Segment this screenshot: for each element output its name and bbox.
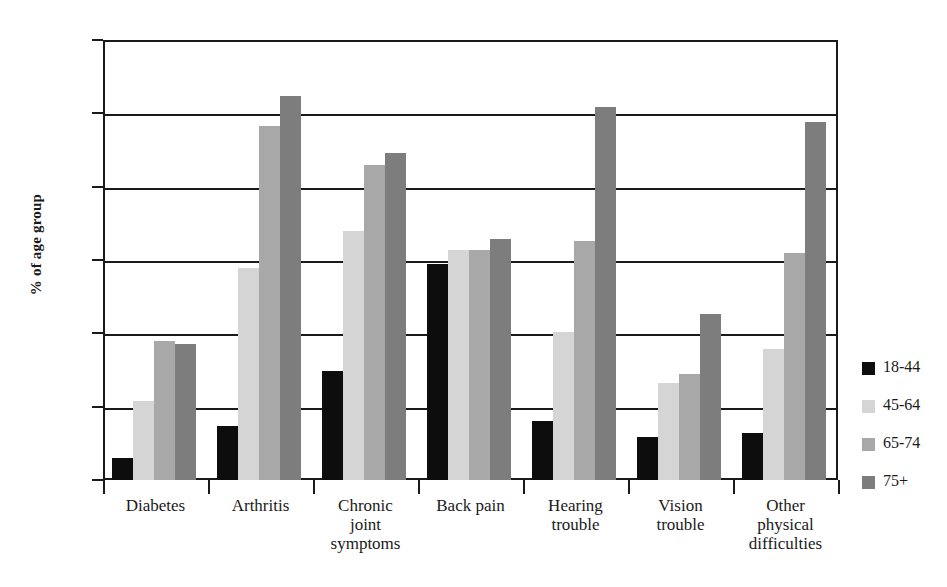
- bar: [700, 314, 721, 480]
- bar: [742, 433, 763, 480]
- bar: [385, 153, 406, 480]
- y-tick-mark: [92, 39, 103, 41]
- x-tick-mark: [838, 480, 840, 494]
- bar: [784, 253, 805, 480]
- x-axis-label: Otherphysicaldifficulties: [723, 496, 849, 554]
- bars-layer: [103, 40, 838, 480]
- bar-group: [418, 40, 523, 480]
- bar: [364, 165, 385, 480]
- bar: [238, 268, 259, 480]
- bar: [679, 374, 700, 480]
- x-tick-mark: [628, 480, 630, 494]
- x-tick-mark: [523, 480, 525, 494]
- bar-group: [208, 40, 313, 480]
- y-tick-mark: [92, 112, 103, 114]
- bar: [595, 107, 616, 480]
- y-tick-mark: [92, 186, 103, 188]
- x-tick-mark: [313, 480, 315, 494]
- legend-label: 65-74: [883, 434, 920, 452]
- y-tick-mark: [92, 406, 103, 408]
- legend-swatch: [862, 400, 875, 413]
- bar: [532, 421, 553, 480]
- bar: [658, 383, 679, 480]
- legend-swatch: [862, 362, 875, 375]
- bar: [175, 344, 196, 480]
- bar: [259, 126, 280, 480]
- bar-group: [733, 40, 838, 480]
- bar: [553, 332, 574, 480]
- bar: [469, 250, 490, 480]
- x-tick-mark: [733, 480, 735, 494]
- y-tick-mark: [92, 259, 103, 261]
- legend-swatch: [862, 438, 875, 451]
- y-axis-title: % of age group: [28, 145, 45, 345]
- bar-group: [628, 40, 733, 480]
- legend-label: 75+: [883, 472, 908, 490]
- bar: [322, 371, 343, 480]
- bar-chart: % of age group 0102030405060 DiabetesArt…: [0, 0, 947, 587]
- legend-label: 18-44: [883, 358, 920, 376]
- bar: [637, 437, 658, 480]
- x-tick-mark: [103, 480, 105, 494]
- bar: [217, 426, 238, 480]
- legend-swatch: [862, 476, 875, 489]
- bar: [427, 264, 448, 480]
- bar: [280, 96, 301, 480]
- bar: [343, 231, 364, 480]
- y-tick-mark: [92, 479, 103, 481]
- bar: [448, 250, 469, 480]
- x-tick-mark: [208, 480, 210, 494]
- bar-group: [313, 40, 418, 480]
- bar: [763, 349, 784, 480]
- y-tick-mark: [92, 332, 103, 334]
- bar: [805, 122, 826, 480]
- legend-label: 45-64: [883, 396, 920, 414]
- x-tick-mark: [418, 480, 420, 494]
- bar: [574, 241, 595, 480]
- bar-group: [103, 40, 208, 480]
- bar-group: [523, 40, 628, 480]
- bar: [154, 341, 175, 480]
- bar: [133, 401, 154, 480]
- bar: [112, 458, 133, 480]
- bar: [490, 239, 511, 480]
